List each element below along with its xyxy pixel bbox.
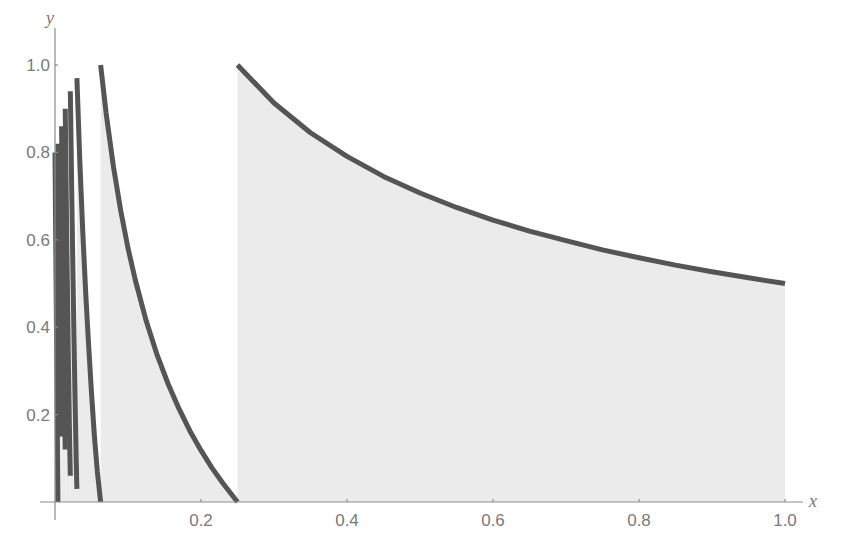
area-fill-segment-1 [238,65,786,502]
x-tick-label: 0.8 [627,511,651,530]
x-tick-label: 0.2 [189,511,213,530]
y-tick-label: 0.8 [26,143,50,162]
y-tick-label: 0.2 [26,406,50,425]
x-ticks: 0.20.40.60.81.0 [189,499,797,530]
x-tick-label: 0.6 [481,511,505,530]
y-tick-label: 0.4 [26,318,50,337]
area-fills [55,65,785,502]
chart: 0.20.40.60.81.0 0.20.40.60.81.0 x y [0,0,842,553]
y-axis-label: y [44,8,54,28]
y-tick-label: 0.6 [26,231,50,250]
area-fill-segment-2 [101,65,238,502]
y-tick-label: 1.0 [26,56,50,75]
x-tick-label: 1.0 [773,511,797,530]
x-tick-label: 0.4 [335,511,359,530]
x-axis-label: x [808,491,817,511]
